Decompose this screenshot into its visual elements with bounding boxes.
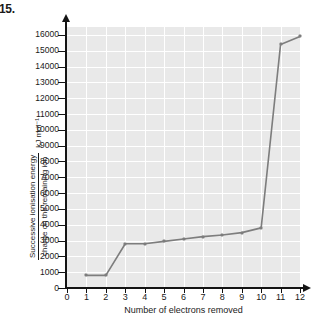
data-point-marker (85, 274, 88, 277)
y-axis-title: Successive ionisation energy charge on t… (10, 60, 32, 260)
y-axis-title-fraction: Successive ionisation energy charge on t… (28, 153, 49, 260)
y-axis-units: kJ mol⁻¹ (34, 118, 44, 148)
data-point-marker (163, 240, 166, 243)
data-point-marker (201, 235, 204, 238)
data-point-marker (124, 242, 127, 245)
data-point-marker (182, 237, 185, 240)
data-point-marker (260, 226, 263, 229)
data-point-marker (279, 43, 282, 46)
data-point-marker (104, 274, 107, 277)
data-point-marker (240, 231, 243, 234)
data-point-marker (299, 35, 302, 38)
data-point-marker (221, 234, 224, 237)
ionisation-energy-chart: 0123456789101112010002000300040005000600… (0, 0, 313, 324)
y-axis-title-numerator: Successive ionisation energy (28, 153, 38, 260)
data-point-marker (143, 242, 146, 245)
x-axis-title: Number of electrons removed (67, 305, 300, 315)
y-axis-title-denominator: charge on the remaining ion (40, 153, 50, 260)
